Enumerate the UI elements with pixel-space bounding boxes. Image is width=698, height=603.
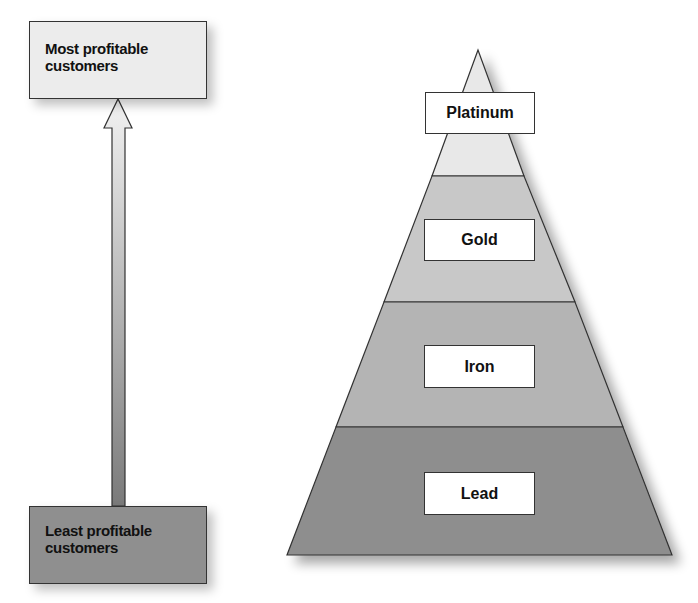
most-profitable-box: Most profitable customers xyxy=(29,21,207,99)
least-profitable-box: Least profitable customers xyxy=(29,506,207,584)
most-profitable-line1: Most profitable xyxy=(45,40,206,57)
tier-label-gold: Gold xyxy=(424,219,535,261)
tier-label-lead: Lead xyxy=(424,472,535,515)
tier-label-iron: Iron xyxy=(424,345,535,388)
least-profitable-line2: customers xyxy=(45,539,206,556)
most-profitable-line2: customers xyxy=(45,57,206,74)
tier-label-platinum: Platinum xyxy=(425,92,535,134)
up-arrow-icon xyxy=(104,99,132,506)
least-profitable-line1: Least profitable xyxy=(45,522,206,539)
